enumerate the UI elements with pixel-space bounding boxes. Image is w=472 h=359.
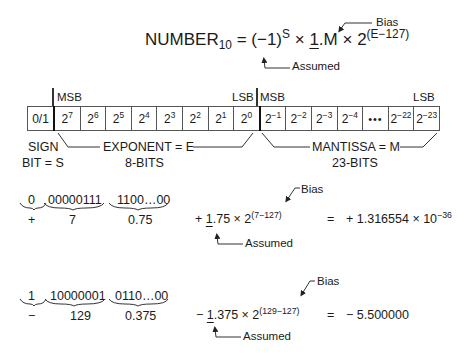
example1-bias-arrow-icon [287, 188, 300, 200]
example1-assumed-arrow-icon [217, 236, 243, 244]
example2-assumed-arrow-icon [215, 329, 241, 337]
example2-bias-arrow-icon [302, 281, 315, 294]
assumed-arrow-icon [264, 60, 290, 68]
connector-lines [0, 0, 472, 359]
bias-arrow-icon [340, 23, 372, 30]
